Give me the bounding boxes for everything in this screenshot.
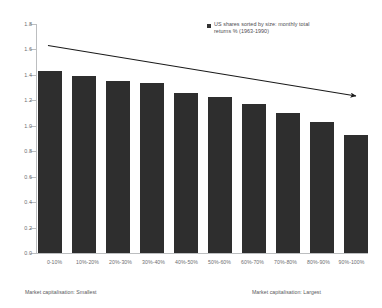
footnote-left: Market capitalisation: Smallest <box>25 289 97 295</box>
bar[interactable] <box>276 113 300 253</box>
y-axis-tick-label: 1.8 <box>24 21 32 27</box>
y-axis-tick-label: 1.4 <box>24 72 32 78</box>
y-axis-tick-label: 1.0 <box>24 123 32 129</box>
y-axis-tick-label: 1.2 <box>24 97 32 103</box>
bar[interactable] <box>310 122 334 253</box>
x-axis-labels: 0-10%10%-20%20%-30%30%-40%40%-50%50%-60%… <box>38 259 368 265</box>
x-axis-tick-label: 70%-80% <box>269 259 302 265</box>
y-axis-tick-label: 0.0 <box>24 250 32 256</box>
bar-slot <box>310 24 334 253</box>
x-axis-tick-label: 50%-60% <box>203 259 236 265</box>
x-axis-tick-label: 20%-30% <box>104 259 137 265</box>
x-axis-tick-label: 30%-40% <box>137 259 170 265</box>
bar[interactable] <box>140 83 164 253</box>
y-axis-tick-label: 0.4 <box>24 199 32 205</box>
footnote-right: Market capitalisation: Largest <box>252 289 321 295</box>
bar[interactable] <box>106 81 130 253</box>
bar-series <box>38 24 368 253</box>
bar-slot <box>174 24 198 253</box>
bar-slot <box>208 24 232 253</box>
x-axis-tick-label: 90%-100% <box>335 259 368 265</box>
y-axis-tick-label: 1.6 <box>24 46 32 52</box>
bar[interactable] <box>38 71 62 253</box>
y-axis-tick-label: 0.2 <box>24 225 32 231</box>
bar[interactable] <box>174 93 198 253</box>
bar-slot <box>276 24 300 253</box>
bar[interactable] <box>242 104 266 253</box>
bar-slot <box>106 24 130 253</box>
y-axis-tick-label: 0.6 <box>24 174 32 180</box>
x-axis-tick-label: 60%-70% <box>236 259 269 265</box>
bar-slot <box>38 24 62 253</box>
x-axis-tick-label: 80%-90% <box>302 259 335 265</box>
bar-slot <box>344 24 368 253</box>
chart-container: US shares sorted by size: monthly total … <box>0 0 382 308</box>
bar-slot <box>72 24 96 253</box>
x-axis-tick-label: 40%-50% <box>170 259 203 265</box>
plot-area: 1.81.61.41.21.00.80.60.40.20.0 <box>38 24 368 253</box>
x-axis-tick-label: 10%-20% <box>71 259 104 265</box>
y-axis-line <box>36 24 37 253</box>
bar[interactable] <box>208 97 232 253</box>
x-axis-tick-label: 0-10% <box>38 259 71 265</box>
bar-slot <box>140 24 164 253</box>
y-axis-tick-label: 0.8 <box>24 148 32 154</box>
bar[interactable] <box>72 76 96 253</box>
bar-slot <box>242 24 266 253</box>
bar[interactable] <box>344 135 368 253</box>
